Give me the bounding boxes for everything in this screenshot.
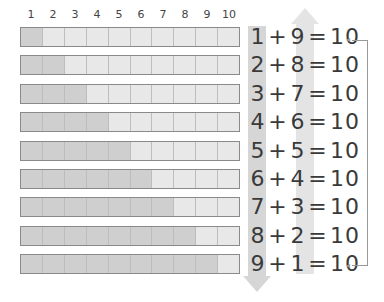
shaded-cell xyxy=(43,56,65,74)
unshaded-cell xyxy=(174,170,196,188)
unshaded-cell xyxy=(218,56,239,74)
unshaded-cell xyxy=(218,113,239,131)
unshaded-cell xyxy=(109,113,131,131)
column-label: 5 xyxy=(108,8,130,21)
unshaded-cell xyxy=(87,28,109,46)
unshaded-cell xyxy=(218,255,239,273)
shaded-cell xyxy=(87,170,109,188)
equation: 8+2=10 xyxy=(250,223,360,249)
addend-b: 3 xyxy=(290,194,306,220)
shaded-cell xyxy=(87,198,109,216)
addend-b: 4 xyxy=(290,166,306,192)
connector-bracket xyxy=(352,40,368,266)
addend-b: 9 xyxy=(290,24,306,50)
column-label: 9 xyxy=(196,8,218,21)
shaded-cell xyxy=(21,142,43,160)
ten-frame-bar xyxy=(20,254,240,274)
plus-sign: + xyxy=(266,24,290,50)
plus-sign: + xyxy=(266,194,290,220)
unshaded-cell xyxy=(152,56,174,74)
unshaded-cell xyxy=(152,85,174,103)
addend-a: 1 xyxy=(250,24,266,50)
unshaded-cell xyxy=(196,28,218,46)
unshaded-cell xyxy=(152,113,174,131)
shaded-cell xyxy=(65,170,87,188)
addend-a: 6 xyxy=(250,166,266,192)
unshaded-cell xyxy=(174,56,196,74)
shaded-cell xyxy=(109,227,131,245)
equation: 4+6=10 xyxy=(250,109,360,135)
unshaded-cell xyxy=(43,28,65,46)
shaded-cell xyxy=(109,255,131,273)
unshaded-cell xyxy=(65,28,87,46)
shaded-cell xyxy=(21,255,43,273)
plus-sign: + xyxy=(266,81,290,107)
equals-sign: = xyxy=(306,166,330,192)
unshaded-cell xyxy=(174,85,196,103)
shaded-cell xyxy=(87,255,109,273)
unshaded-cell xyxy=(196,56,218,74)
ten-frame-bar xyxy=(20,112,240,132)
equation: 7+3=10 xyxy=(250,194,360,220)
shaded-cell xyxy=(43,142,65,160)
unshaded-cell xyxy=(65,56,87,74)
ten-frame-bar xyxy=(20,84,240,104)
shaded-cell xyxy=(109,142,131,160)
column-label: 8 xyxy=(174,8,196,21)
ten-frame-bar xyxy=(20,169,240,189)
equation: 2+8=10 xyxy=(250,52,360,78)
addend-b: 7 xyxy=(290,81,306,107)
column-label: 10 xyxy=(218,8,240,21)
addend-a: 7 xyxy=(250,194,266,220)
unshaded-cell xyxy=(218,28,239,46)
unshaded-cell xyxy=(218,142,239,160)
unshaded-cell xyxy=(131,113,153,131)
unshaded-cell xyxy=(196,113,218,131)
shaded-cell xyxy=(131,198,153,216)
addend-b: 1 xyxy=(290,251,306,277)
arrow-tip-icon: ◂ xyxy=(346,262,350,270)
ten-frame-bar xyxy=(20,55,240,75)
shaded-cell xyxy=(152,198,174,216)
unshaded-cell xyxy=(152,28,174,46)
equation: 6+4=10 xyxy=(250,166,360,192)
plus-sign: + xyxy=(266,138,290,164)
addend-a: 9 xyxy=(250,251,266,277)
arrow-tip-icon: ◂ xyxy=(346,36,350,44)
column-label: 6 xyxy=(130,8,152,21)
column-label: 3 xyxy=(64,8,86,21)
equals-sign: = xyxy=(306,24,330,50)
unshaded-cell xyxy=(196,227,218,245)
unshaded-cell xyxy=(87,56,109,74)
shaded-cell xyxy=(21,227,43,245)
plus-sign: + xyxy=(266,251,290,277)
shaded-cell xyxy=(43,85,65,103)
shaded-cell xyxy=(21,28,43,46)
equals-sign: = xyxy=(306,194,330,220)
shaded-cell xyxy=(43,255,65,273)
shaded-cell xyxy=(43,113,65,131)
shaded-cell xyxy=(87,227,109,245)
shaded-cell xyxy=(21,198,43,216)
unshaded-cell xyxy=(218,85,239,103)
addend-a: 4 xyxy=(250,109,266,135)
equation: 3+7=10 xyxy=(250,81,360,107)
shaded-cell xyxy=(65,113,87,131)
unshaded-cell xyxy=(109,28,131,46)
shaded-cell xyxy=(21,85,43,103)
addend-a: 2 xyxy=(250,52,266,78)
shaded-cell xyxy=(152,255,174,273)
unshaded-cell xyxy=(174,113,196,131)
column-label: 7 xyxy=(152,8,174,21)
equals-sign: = xyxy=(306,223,330,249)
equals-sign: = xyxy=(306,138,330,164)
shaded-cell xyxy=(65,142,87,160)
equation: 5+5=10 xyxy=(250,138,360,164)
unshaded-cell xyxy=(152,142,174,160)
shaded-cell xyxy=(196,255,218,273)
addend-b: 2 xyxy=(290,223,306,249)
plus-sign: + xyxy=(266,52,290,78)
shaded-cell xyxy=(109,198,131,216)
shaded-cell xyxy=(65,198,87,216)
shaded-cell xyxy=(65,227,87,245)
